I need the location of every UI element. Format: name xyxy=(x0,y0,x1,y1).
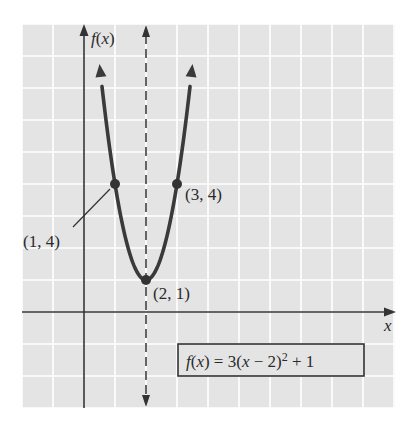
x-axis-label: x xyxy=(383,316,392,335)
y-axis-label: f(x) xyxy=(91,29,115,48)
formula-text: f(x) = 3(x − 2)2 + 1 xyxy=(186,350,314,371)
point-label-3-4: (3, 4) xyxy=(185,185,222,204)
point-3-4 xyxy=(172,179,182,189)
point-label-1-4: (1, 4) xyxy=(23,232,60,251)
parabola-figure: f(x) x (1, 4) (3, 4) (2, 1) f(x) = 3(x −… xyxy=(0,0,413,433)
point-1-4 xyxy=(110,179,120,189)
vertex-label: (2, 1) xyxy=(153,284,190,303)
vertex-point xyxy=(141,275,151,285)
